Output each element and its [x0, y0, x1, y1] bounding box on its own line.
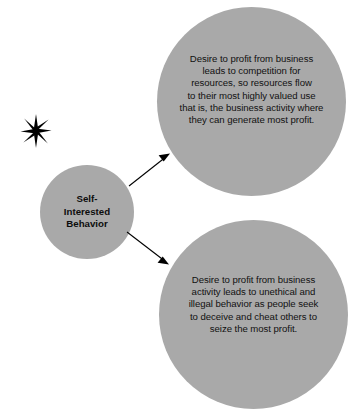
arrow-to-negative-outcome-line	[127, 232, 164, 260]
arrow-to-negative-outcome-head	[158, 256, 169, 264]
negative-outcome-circle: Desire to profit from business activity …	[159, 220, 348, 409]
diagram-canvas: Desire to profit from business leads to …	[0, 0, 351, 419]
arrow-to-positive-outcome-head	[159, 154, 170, 162]
arrow-to-negative-outcome	[127, 232, 169, 265]
arrow-to-positive-outcome-line	[129, 158, 165, 186]
positive-outcome-circle: Desire to profit from business leads to …	[157, 7, 346, 196]
positive-outcome-text: Desire to profit from business leads to …	[157, 53, 346, 126]
arrow-to-positive-outcome	[129, 154, 170, 187]
self-interested-behavior-circle: Self- Interested Behavior	[40, 165, 134, 259]
asterisk-star-icon	[20, 114, 52, 148]
negative-outcome-text: Desire to profit from business activity …	[159, 274, 348, 334]
self-interested-behavior-label: Self- Interested Behavior	[41, 193, 133, 231]
